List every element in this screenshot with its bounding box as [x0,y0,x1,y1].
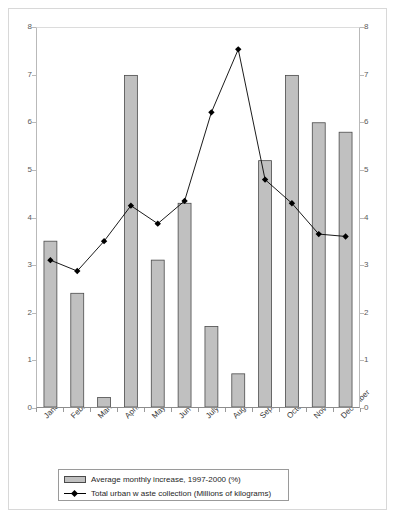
y-axis-left-tick-label: 3 [12,261,32,269]
line-diamond-swatch-icon [64,489,86,498]
y-axis-right-tick-mark [360,170,364,171]
y-axis-left-tick-label: 0 [12,404,32,412]
bar [205,326,218,407]
y-axis-right-tick-label: 1 [364,356,384,364]
bar [98,398,111,407]
x-axis-tick-mark [252,408,253,412]
x-axis-tick-mark [306,408,307,412]
y-axis-left-tick-label: 6 [12,118,32,126]
y-axis-right-tick-label: 8 [364,23,384,31]
x-axis-tick-mark [198,408,199,412]
y-axis-right-tick-mark [360,218,364,219]
bar [124,75,137,407]
legend-item-label: Average monthly increase, 1997-2000 (%) [91,475,241,484]
bar-series [44,75,352,407]
x-axis-tick-mark [90,408,91,412]
y-axis-left-tick-label: 5 [12,166,32,174]
y-axis-right-tick-label: 5 [364,166,384,174]
y-axis-right-tick-label: 4 [364,214,384,222]
x-axis-tick-mark [171,408,172,412]
bar [232,374,245,407]
line-path [50,49,345,271]
bar [339,132,352,407]
chart-figure: 876543210 876543210 JanuaryFebruaryMarch… [0,0,396,519]
x-axis-tick-mark [333,408,334,412]
x-axis-tick-mark [117,408,118,412]
bar [151,260,164,407]
y-axis-left-tick-label: 2 [12,309,32,317]
legend: Average monthly increase, 1997-2000 (%) … [58,469,289,501]
x-axis-tick-mark [225,408,226,412]
y-axis-right-tick-label: 6 [364,118,384,126]
bar [312,123,325,407]
line-marker [208,109,214,115]
y-axis-right-tick-label: 3 [364,261,384,269]
legend-item-label: Total urban w aste collection (Millions … [91,489,271,498]
y-axis-right-tick-mark [360,265,364,266]
x-axis-tick-mark [36,408,37,412]
y-axis-right-tick-label: 0 [364,404,384,412]
line-marker [235,46,241,52]
legend-item-line: Total urban w aste collection (Millions … [64,486,271,500]
y-axis-left-tick-label: 7 [12,71,32,79]
y-axis-right-tick-mark [360,360,364,361]
x-axis-tick-mark [144,408,145,412]
y-axis-right-tick-mark [360,313,364,314]
y-axis-right-tick-label: 2 [364,309,384,317]
bar [44,241,57,407]
bar [71,293,84,407]
y-axis-right-tick-mark [360,27,364,28]
plot-area [36,27,360,408]
bar [178,203,191,407]
series-layer [37,28,359,407]
legend-item-bar: Average monthly increase, 1997-2000 (%) [64,472,241,486]
y-axis-left-tick-label: 8 [12,23,32,31]
bar-swatch-icon [64,476,86,483]
y-axis-left-tick-label: 1 [12,356,32,364]
bar [259,161,272,407]
y-axis-right-tick-mark [360,122,364,123]
y-axis-right-tick-label: 7 [364,71,384,79]
line-series [47,46,349,274]
x-axis-tick-mark [360,408,361,412]
y-axis-left-tick-label: 4 [12,214,32,222]
x-axis-tick-mark [63,408,64,412]
y-axis-right-tick-mark [360,75,364,76]
bar [285,75,298,407]
x-axis-tick-mark [279,408,280,412]
